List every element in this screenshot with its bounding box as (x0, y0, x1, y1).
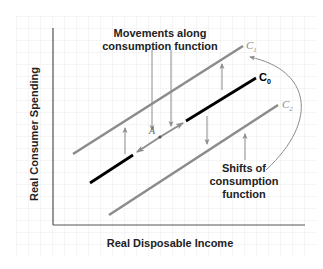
consumption-function-diagram: C1 C0 C2 A Movements along consumption f… (0, 0, 323, 269)
movements-annotation: Movements along consumption function (100, 27, 220, 53)
label-point-a: A (149, 125, 155, 136)
shifts-annotation: Shifts of consumption function (204, 162, 284, 201)
label-c2: C2 (282, 98, 293, 113)
label-c1: C1 (246, 39, 257, 54)
x-axis-label: Real Disposable Income (100, 237, 240, 250)
y-axis-label: Real Consumer Spending (28, 64, 40, 204)
label-c0: C0 (259, 71, 271, 85)
point-a (158, 135, 161, 138)
